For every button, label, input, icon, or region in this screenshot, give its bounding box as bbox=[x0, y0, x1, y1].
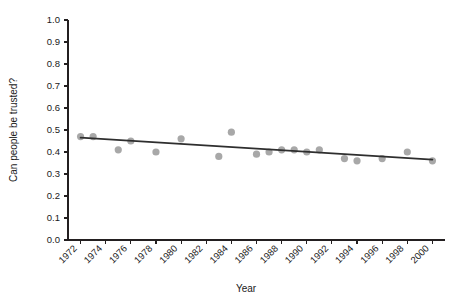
y-tick-label: 0.5 bbox=[47, 124, 60, 135]
scatter-plot: 0.00.10.20.30.40.50.60.70.80.91.0 197219… bbox=[0, 0, 465, 308]
x-tick-label: 1976 bbox=[107, 243, 130, 266]
data-points-layer bbox=[77, 129, 436, 165]
y-axis-title: Can people be trusted? bbox=[8, 78, 19, 182]
x-tick-label: 1994 bbox=[333, 243, 356, 266]
chart-figure: 0.00.10.20.30.40.50.60.70.80.91.0 197219… bbox=[0, 0, 465, 308]
x-tick-label: 1972 bbox=[56, 243, 79, 266]
y-tick-label: 0.1 bbox=[47, 212, 60, 223]
x-tick-label: 1988 bbox=[257, 243, 280, 266]
y-tick-label: 0.0 bbox=[47, 234, 60, 245]
y-tick-label: 0.8 bbox=[47, 58, 60, 69]
data-point bbox=[228, 129, 235, 136]
data-point bbox=[77, 133, 84, 140]
data-point bbox=[215, 153, 222, 160]
data-point bbox=[253, 151, 260, 158]
y-tick-label: 0.7 bbox=[47, 80, 60, 91]
data-point bbox=[152, 148, 159, 155]
y-tick-label: 0.6 bbox=[47, 102, 60, 113]
x-tick-label: 1992 bbox=[308, 243, 331, 266]
x-tick-label: 1974 bbox=[81, 243, 104, 266]
x-axis: 1972197419761978198019821984198619881990… bbox=[56, 240, 445, 265]
x-tick-label: 1978 bbox=[132, 243, 155, 266]
x-tick-label: 1996 bbox=[358, 243, 381, 266]
data-point bbox=[291, 146, 298, 153]
y-tick-label: 0.9 bbox=[47, 36, 60, 47]
data-point bbox=[404, 148, 411, 155]
data-point bbox=[115, 146, 122, 153]
y-tick-label: 0.2 bbox=[47, 190, 60, 201]
y-tick-label: 0.4 bbox=[47, 146, 60, 157]
x-tick-label: 1984 bbox=[207, 243, 230, 266]
x-axis-title: Year bbox=[236, 283, 257, 294]
data-point bbox=[178, 135, 185, 142]
data-point bbox=[353, 157, 360, 164]
x-tick-label: 1998 bbox=[383, 243, 406, 266]
x-tick-label: 1986 bbox=[232, 243, 255, 266]
x-tick-label: 1980 bbox=[157, 243, 180, 266]
x-tick-label: 1990 bbox=[282, 243, 305, 266]
x-tick-label: 1982 bbox=[182, 243, 205, 266]
data-point bbox=[429, 157, 436, 164]
data-point bbox=[341, 155, 348, 162]
y-tick-label: 1.0 bbox=[47, 14, 60, 25]
y-tick-label: 0.3 bbox=[47, 168, 60, 179]
x-tick-label: 2000 bbox=[408, 243, 431, 266]
y-axis: 0.00.10.20.30.40.50.60.70.80.91.0 bbox=[47, 14, 68, 245]
